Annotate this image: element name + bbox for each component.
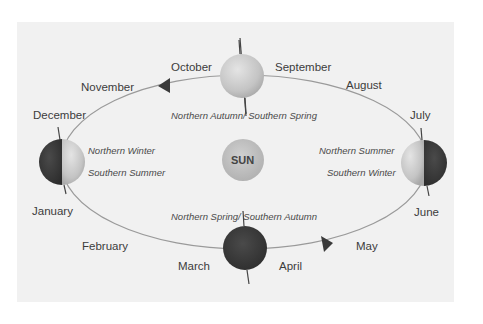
- season-label-northern-summer: Northern Summer: [319, 146, 395, 156]
- label-february: February: [82, 241, 128, 253]
- label-may: May: [356, 241, 378, 253]
- label-october: October: [171, 62, 212, 74]
- earth-september-icon: [220, 38, 264, 116]
- label-january: January: [32, 206, 73, 218]
- label-april: April: [279, 261, 302, 273]
- season-label-top: Northern Autumn/ Southern Spring: [171, 111, 317, 121]
- label-june: June: [414, 207, 439, 219]
- arrow-left-icon: [158, 78, 170, 93]
- label-march: March: [178, 261, 210, 273]
- season-label-southern-summer: Southern Summer: [88, 168, 165, 178]
- label-august: August: [346, 80, 382, 92]
- earth-june-icon: [401, 128, 447, 196]
- label-september: September: [275, 62, 331, 74]
- label-november: November: [81, 82, 134, 94]
- season-label-southern-winter: Southern Winter: [327, 168, 396, 178]
- earth-december-icon: [39, 127, 85, 194]
- season-label-bottom: Northern Spring/ Southern Autumn: [171, 212, 317, 222]
- label-december: December: [33, 110, 86, 122]
- season-label-northern-winter: Northern Winter: [88, 146, 155, 156]
- label-july: July: [410, 110, 430, 122]
- sun-label: SUN: [231, 155, 254, 166]
